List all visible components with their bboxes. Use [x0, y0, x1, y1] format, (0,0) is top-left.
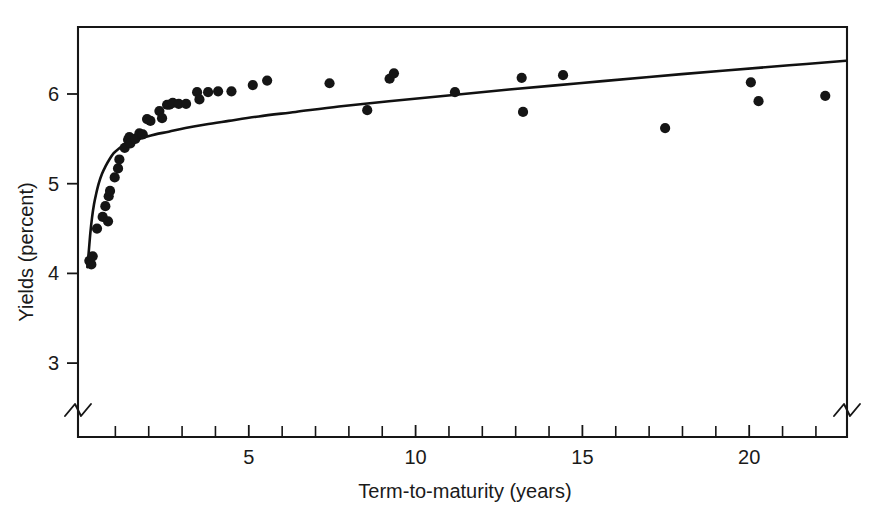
- axis-break-group: [65, 404, 860, 416]
- data-point: [194, 94, 204, 104]
- y-axis-tick-group: [67, 94, 78, 363]
- data-point: [746, 77, 756, 87]
- data-point: [820, 91, 830, 101]
- data-point: [203, 87, 213, 97]
- x-axis-tick-label: 5: [243, 446, 254, 468]
- data-point: [110, 172, 120, 182]
- chart-canvas: 3456 5101520 Term-to-maturity (years) Yi…: [0, 0, 877, 521]
- x-axis-title: Term-to-maturity (years): [358, 480, 571, 502]
- frame-outline: [78, 27, 847, 437]
- yield-curve-figure: 3456 5101520 Term-to-maturity (years) Yi…: [0, 0, 877, 521]
- x-axis-tick-label: 10: [404, 446, 426, 468]
- x-axis-minor-tick-group: [115, 426, 816, 437]
- data-point: [324, 78, 334, 88]
- x-axis-tick-label-group: 5101520: [243, 446, 760, 468]
- data-point: [362, 105, 372, 115]
- data-point: [660, 123, 670, 133]
- data-point: [753, 96, 763, 106]
- y-axis-tick-label: 6: [48, 83, 59, 105]
- plot-frame: [78, 27, 847, 437]
- y-axis-tick-label: 5: [48, 173, 59, 195]
- data-point: [181, 99, 191, 109]
- data-point: [226, 86, 236, 96]
- x-axis-tick-label: 15: [571, 446, 593, 468]
- data-point: [100, 201, 110, 211]
- x-axis-major-tick-group: [249, 425, 749, 437]
- y-axis-title: Yields (percent): [15, 182, 37, 321]
- data-point: [88, 251, 98, 261]
- y-axis-tick-label-group: 3456: [48, 83, 59, 374]
- y-axis-tick-label: 3: [48, 352, 59, 374]
- data-point: [103, 216, 113, 226]
- data-point: [518, 107, 528, 117]
- data-point: [105, 186, 115, 196]
- y-axis-tick-label: 4: [48, 262, 59, 284]
- x-axis-tick-label: 20: [738, 446, 760, 468]
- data-point: [145, 116, 155, 126]
- data-point: [157, 113, 167, 123]
- data-point: [248, 80, 258, 90]
- data-point: [517, 73, 527, 83]
- data-point: [558, 70, 568, 80]
- data-point: [114, 154, 124, 164]
- data-point: [92, 223, 102, 233]
- data-point: [138, 129, 148, 139]
- data-point: [113, 163, 123, 173]
- data-point: [450, 87, 460, 97]
- data-point: [389, 68, 399, 78]
- scatter-point-group: [84, 68, 830, 269]
- data-point: [213, 86, 223, 96]
- data-point: [262, 75, 272, 85]
